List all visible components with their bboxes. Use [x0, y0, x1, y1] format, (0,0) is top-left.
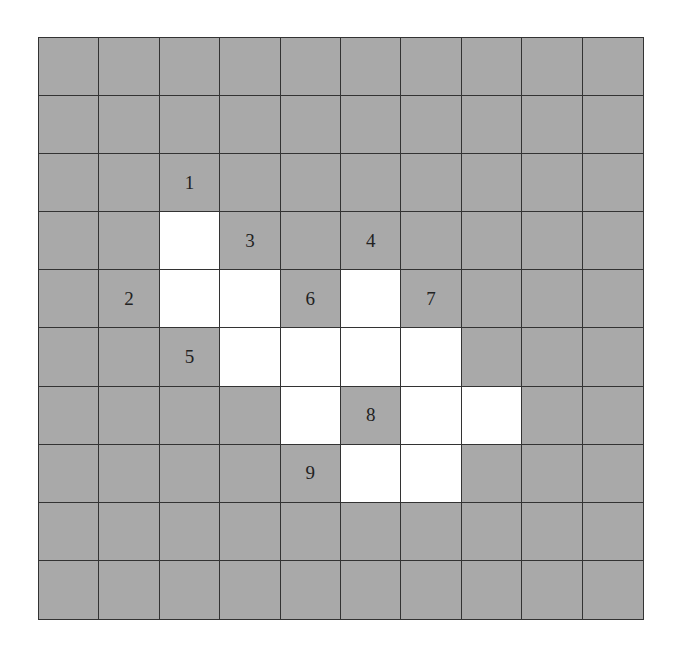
blocked-cell	[220, 445, 280, 503]
blocked-cell	[583, 503, 643, 561]
blocked-cell	[341, 154, 401, 212]
blocked-cell	[341, 38, 401, 96]
blocked-cell	[462, 561, 522, 619]
clue-number: 5	[160, 346, 219, 368]
blocked-cell	[220, 96, 280, 154]
blocked-cell: 8	[341, 387, 401, 445]
blocked-cell	[281, 212, 341, 270]
open-cell[interactable]	[341, 445, 401, 503]
blocked-cell	[39, 328, 99, 386]
open-cell[interactable]	[281, 328, 341, 386]
open-cell[interactable]	[401, 387, 461, 445]
blocked-cell	[522, 561, 582, 619]
blocked-cell	[522, 270, 582, 328]
blocked-cell	[341, 503, 401, 561]
blocked-cell	[462, 445, 522, 503]
blocked-cell	[39, 38, 99, 96]
blocked-cell	[99, 503, 159, 561]
open-cell[interactable]	[220, 328, 280, 386]
clue-number: 7	[401, 288, 460, 310]
open-cell[interactable]	[281, 387, 341, 445]
open-cell[interactable]	[401, 328, 461, 386]
clue-number: 1	[160, 172, 219, 194]
blocked-cell	[462, 38, 522, 96]
blocked-cell	[583, 328, 643, 386]
blocked-cell	[39, 561, 99, 619]
blocked-cell	[220, 561, 280, 619]
blocked-cell	[39, 445, 99, 503]
open-cell[interactable]	[462, 387, 522, 445]
blocked-cell	[401, 212, 461, 270]
blocked-cell	[39, 212, 99, 270]
blocked-cell	[160, 387, 220, 445]
blocked-cell: 2	[99, 270, 159, 328]
blocked-cell: 4	[341, 212, 401, 270]
blocked-cell	[220, 503, 280, 561]
open-cell[interactable]	[160, 270, 220, 328]
blocked-cell	[39, 503, 99, 561]
blocked-cell	[583, 38, 643, 96]
clue-number: 6	[281, 288, 340, 310]
blocked-cell: 3	[220, 212, 280, 270]
blocked-cell	[522, 154, 582, 212]
blocked-cell	[401, 38, 461, 96]
blocked-cell	[281, 503, 341, 561]
clue-number: 9	[281, 462, 340, 484]
blocked-cell	[99, 212, 159, 270]
blocked-cell	[522, 387, 582, 445]
open-cell[interactable]	[341, 328, 401, 386]
blocked-cell	[522, 503, 582, 561]
blocked-cell	[99, 38, 159, 96]
blocked-cell	[462, 212, 522, 270]
blocked-cell	[401, 561, 461, 619]
blocked-cell	[39, 270, 99, 328]
blocked-cell	[99, 154, 159, 212]
blocked-cell	[401, 96, 461, 154]
blocked-cell	[583, 387, 643, 445]
blocked-cell	[341, 96, 401, 154]
blocked-cell	[522, 445, 582, 503]
blocked-cell	[583, 96, 643, 154]
blocked-cell	[220, 387, 280, 445]
blocked-cell	[160, 561, 220, 619]
blocked-cell	[522, 96, 582, 154]
blocked-cell	[522, 38, 582, 96]
blocked-cell	[462, 154, 522, 212]
blocked-cell	[583, 561, 643, 619]
blocked-cell	[341, 561, 401, 619]
blocked-cell	[220, 38, 280, 96]
blocked-cell	[160, 445, 220, 503]
blocked-cell	[160, 503, 220, 561]
blocked-cell: 6	[281, 270, 341, 328]
blocked-cell	[401, 154, 461, 212]
blocked-cell	[462, 270, 522, 328]
blocked-cell	[401, 503, 461, 561]
blocked-cell: 9	[281, 445, 341, 503]
blocked-cell	[99, 328, 159, 386]
blocked-cell: 1	[160, 154, 220, 212]
blocked-cell	[462, 96, 522, 154]
blocked-cell	[39, 154, 99, 212]
blocked-cell	[99, 387, 159, 445]
open-cell[interactable]	[341, 270, 401, 328]
blocked-cell	[281, 561, 341, 619]
blocked-cell	[99, 561, 159, 619]
blocked-cell	[281, 154, 341, 212]
clue-number: 4	[341, 230, 400, 252]
clue-number: 2	[99, 288, 158, 310]
blocked-cell	[583, 154, 643, 212]
clue-number: 8	[341, 404, 400, 426]
blocked-cell	[99, 445, 159, 503]
blocked-cell	[281, 96, 341, 154]
open-cell[interactable]	[220, 270, 280, 328]
blocked-cell: 5	[160, 328, 220, 386]
blocked-cell	[39, 387, 99, 445]
crossword-grid: 134267589	[38, 37, 644, 620]
blocked-cell	[522, 328, 582, 386]
blocked-cell	[522, 212, 582, 270]
blocked-cell	[281, 38, 341, 96]
open-cell[interactable]	[160, 212, 220, 270]
blocked-cell	[39, 96, 99, 154]
open-cell[interactable]	[401, 445, 461, 503]
blocked-cell	[220, 154, 280, 212]
